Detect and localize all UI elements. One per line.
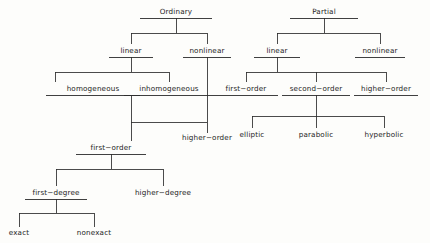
connector-pde-linear-bus: [246, 57, 386, 82]
tree-node-ode_nonlinear: nonlinear: [183, 46, 231, 57]
tree-node-hyperbolic: hyperbolic: [364, 130, 403, 139]
connector-first-order-bus: [56, 154, 163, 186]
connector-first-degree-bus: [19, 199, 94, 227]
node-label-pde_higher_order: higher−order: [361, 84, 411, 93]
tree-node-elliptic: elliptic: [240, 130, 265, 139]
tree-node-homogeneous: homogeneous: [46, 84, 140, 95]
node-label-first_degree: first−degree: [32, 188, 79, 197]
node-label-first_order: first−order: [91, 143, 132, 152]
tree-node-pde_higher_order: higher−order: [354, 84, 418, 95]
node-label-elliptic: elliptic: [240, 130, 265, 139]
node-label-ode_nonlinear: nonlinear: [189, 46, 224, 55]
connector-ode-linear-bus: [55, 57, 169, 82]
tree-node-first_degree: first−degree: [25, 188, 87, 199]
tree-node-ode_linear: linear: [109, 46, 153, 57]
tree-node-partial: Partial: [290, 7, 358, 18]
node-label-nonexact: nonexact: [77, 228, 111, 237]
node-label-ode_linear: linear: [120, 46, 141, 55]
node-label-hyperbolic: hyperbolic: [364, 130, 403, 139]
tree-node-pde_second_order: second−order: [282, 84, 350, 95]
connector-ordinary-bus: [131, 18, 207, 44]
node-label-pde_second_order: second−order: [290, 84, 343, 93]
node-label-partial: Partial: [312, 7, 336, 16]
tree-node-exact: exact: [9, 228, 30, 237]
tree-node-pde_nonlinear: nonlinear: [355, 46, 405, 57]
tree-node-nonexact: nonexact: [77, 228, 111, 237]
node-label-homogeneous: homogeneous: [67, 84, 120, 93]
tree-node-parabolic: parabolic: [299, 130, 334, 139]
node-label-pde_linear: linear: [266, 46, 287, 55]
tree-node-inhomogeneous: inhomogeneous: [124, 84, 214, 95]
connector-pde-second-order-bus: [252, 95, 384, 128]
node-label-pde_first_order: first−order: [226, 84, 267, 93]
node-label-higher_degree: higher−degree: [135, 188, 192, 197]
tree-node-ordinary: Ordinary: [140, 7, 212, 18]
node-label-ode_higher_order: higher−order: [182, 133, 232, 142]
node-group: Ordinarylinearnonlinearhomogeneousinhomo…: [9, 7, 418, 237]
node-label-ordinary: Ordinary: [160, 7, 193, 16]
tree-node-pde_first_order: first−order: [214, 84, 278, 95]
node-label-parabolic: parabolic: [299, 130, 334, 139]
tree-diagram-canvas: Ordinarylinearnonlinearhomogeneousinhomo…: [0, 0, 430, 243]
differential-equation-classification-diagram: Ordinarylinearnonlinearhomogeneousinhomo…: [0, 0, 430, 243]
tree-node-higher_degree: higher−degree: [135, 188, 192, 197]
connector-partial-bus: [277, 18, 380, 44]
tree-node-ode_higher_order: higher−order: [182, 133, 232, 142]
node-label-exact: exact: [9, 228, 30, 237]
tree-node-pde_linear: linear: [254, 46, 300, 57]
tree-node-first_order: first−order: [76, 143, 146, 154]
node-label-pde_nonlinear: nonlinear: [362, 46, 397, 55]
node-label-inhomogeneous: inhomogeneous: [139, 84, 199, 93]
